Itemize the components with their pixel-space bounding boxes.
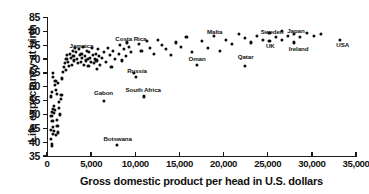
- x-tick: [223, 152, 224, 157]
- data-point: [174, 41, 177, 44]
- data-point: [137, 42, 140, 45]
- x-tick: [46, 152, 47, 157]
- data-point: [201, 39, 204, 42]
- data-point: [56, 81, 59, 84]
- data-point: [129, 51, 132, 54]
- data-point: [105, 60, 108, 63]
- data-point: [135, 76, 138, 79]
- data-point: [49, 95, 52, 98]
- data-point: [169, 53, 172, 56]
- data-point: [102, 99, 105, 102]
- y-tick: [43, 72, 48, 73]
- data-point: [68, 52, 71, 55]
- country-label: Ireland: [289, 46, 309, 52]
- data-point: [103, 51, 106, 54]
- x-tick-label: 0: [45, 159, 50, 169]
- data-point: [305, 31, 308, 34]
- data-point: [57, 100, 60, 103]
- data-point: [52, 76, 55, 79]
- country-label: South Africa: [126, 87, 161, 93]
- data-point: [52, 125, 55, 128]
- x-tick-label: 35,000: [343, 159, 369, 169]
- data-point: [231, 42, 234, 45]
- data-point: [190, 51, 193, 54]
- x-axis-title: Gross domestic product per head in U.S. …: [47, 175, 356, 187]
- data-point: [75, 51, 78, 54]
- data-point: [299, 35, 302, 38]
- data-point: [124, 55, 127, 58]
- country-label: Oman: [189, 56, 206, 62]
- data-point: [64, 69, 67, 72]
- x-tick-label: 25,000: [254, 159, 281, 169]
- x-tick: [355, 152, 356, 157]
- data-point: [117, 52, 120, 55]
- x-tick: [179, 152, 180, 157]
- y-tick: [43, 142, 48, 143]
- data-point: [57, 131, 60, 134]
- data-point: [72, 55, 75, 58]
- data-point: [119, 44, 122, 47]
- data-point: [59, 113, 62, 116]
- data-point: [55, 92, 58, 95]
- data-point: [185, 35, 188, 38]
- x-tick-label: 10,000: [122, 159, 149, 169]
- data-point: [50, 91, 53, 94]
- data-point: [143, 95, 146, 98]
- data-point: [89, 56, 92, 59]
- y-tick: [43, 58, 48, 59]
- data-point: [110, 66, 113, 69]
- data-point: [218, 49, 221, 52]
- data-point: [115, 143, 118, 146]
- data-point: [140, 49, 143, 52]
- data-point: [58, 106, 61, 109]
- x-tick-label: 15,000: [166, 159, 193, 169]
- data-point: [60, 94, 63, 97]
- x-tick-label: 5,000: [80, 159, 102, 169]
- data-point: [225, 38, 228, 41]
- country-label: Botswana: [103, 136, 131, 142]
- country-label: Japan: [287, 28, 304, 34]
- data-point: [120, 59, 123, 62]
- data-point: [83, 63, 86, 66]
- country-label: Gabon: [94, 90, 113, 96]
- data-point: [51, 71, 54, 74]
- data-point: [53, 84, 56, 87]
- data-point: [92, 62, 95, 65]
- country-label: Russia: [127, 68, 147, 74]
- data-point: [53, 109, 56, 112]
- x-tick-label: 30,000: [298, 159, 325, 169]
- data-point: [165, 48, 168, 51]
- data-point: [249, 41, 252, 44]
- scatter-chart: 3540455055606570758085 05,00010,00015,00…: [0, 0, 369, 194]
- data-point: [160, 44, 163, 47]
- x-tick: [90, 152, 91, 157]
- data-point: [50, 114, 53, 117]
- data-point: [243, 37, 246, 40]
- data-point: [280, 38, 283, 41]
- country-label: Costa Rica: [115, 36, 146, 42]
- y-tick: [43, 100, 48, 101]
- data-point: [113, 58, 116, 61]
- y-axis-title: Life expectancy at birth: [27, 14, 38, 154]
- y-tick: [43, 45, 48, 46]
- country-label: UK: [266, 43, 275, 49]
- data-point: [88, 51, 91, 54]
- data-point: [96, 67, 99, 70]
- data-point: [51, 145, 54, 148]
- data-point: [196, 63, 199, 66]
- data-point: [61, 77, 64, 80]
- y-tick: [43, 86, 48, 87]
- data-point: [106, 46, 109, 49]
- x-tick: [135, 152, 136, 157]
- data-point: [53, 105, 56, 108]
- data-point: [51, 120, 54, 123]
- data-point: [312, 34, 315, 37]
- data-point: [100, 56, 103, 59]
- y-tick: [43, 31, 48, 32]
- y-tick: [43, 128, 48, 129]
- data-point: [87, 64, 90, 67]
- data-point: [152, 52, 155, 55]
- data-point: [56, 124, 59, 127]
- country-label: Sweden: [261, 29, 284, 35]
- data-point: [149, 46, 152, 49]
